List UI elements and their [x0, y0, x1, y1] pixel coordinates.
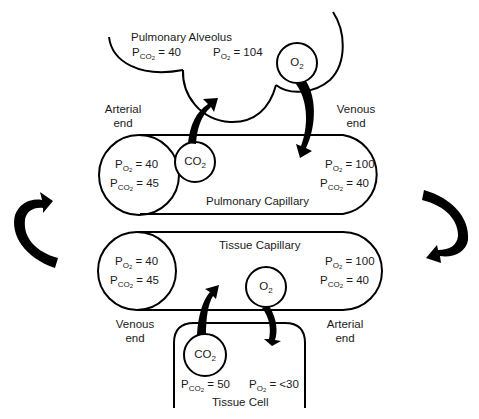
pulmonary-arterial-end-label: Arterialend [98, 102, 148, 130]
tissue-cell-title: Tissue Cell [212, 395, 268, 409]
tissue-left-pco2: PCO2 = 45 [110, 273, 159, 293]
co2-to-alveolus-arrow [188, 98, 218, 144]
tissue-o2-label: O2 [250, 280, 282, 295]
tissue-venous-end-label: Venousend [110, 317, 160, 345]
tissue-arterial-end-label: Arterialend [320, 317, 370, 345]
right-circulation-arrow [422, 190, 468, 263]
left-circulation-arrow [14, 192, 58, 268]
alveolus-title: Pulmonary Alveolus [131, 30, 232, 44]
pulmonary-right-po2: PO2 = 100 [325, 157, 375, 177]
tissue-co2-label: CO2 [189, 348, 221, 363]
tissue-cell-po2: PO2 = <30 [249, 377, 299, 397]
pulmonary-co2-label: CO2 [179, 155, 211, 170]
pulmonary-capillary-title: Pulmonary Capillary [206, 194, 309, 208]
alveolus-o2-label: O2 [281, 56, 313, 71]
tissue-cell-pco2: PCO2 = 50 [181, 377, 230, 397]
pulmonary-venous-end-label: Venousend [331, 102, 381, 130]
tissue-right-po2: PO2 = 100 [325, 254, 375, 274]
alveolus-pco2: PCO2 = 40 [132, 45, 181, 65]
o2-to-tissue-arrow [262, 306, 281, 346]
pulmonary-left-pco2: PCO2 = 45 [110, 176, 159, 196]
pulmonary-right-pco2: PCO2 = 40 [320, 176, 369, 196]
tissue-right-pco2: PCO2 = 40 [320, 273, 369, 293]
pulmonary-left-po2: PO2 = 40 [115, 157, 158, 177]
tissue-capillary-title: Tissue Capillary [219, 238, 300, 252]
alveolus-po2: PO2 = 104 [213, 45, 263, 65]
tissue-left-po2: PO2 = 40 [115, 254, 158, 274]
